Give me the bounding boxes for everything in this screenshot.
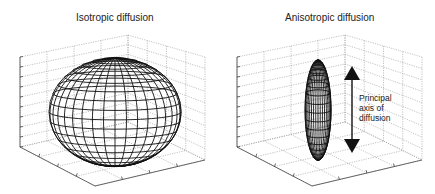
- principal-axis-label: Principal axis of diffusion: [359, 93, 392, 123]
- sphere-wireframe: [49, 57, 181, 166]
- anisotropic-plot: [217, 0, 435, 194]
- principal-axis-arrow-icon: [344, 66, 360, 153]
- ellipsoid-wireframe: [305, 60, 331, 160]
- panel-anisotropic: Anisotropic diffusion Principal axis of …: [217, 0, 435, 194]
- panel-isotropic: Isotropic diffusion: [0, 0, 218, 194]
- isotropic-plot: [0, 0, 218, 194]
